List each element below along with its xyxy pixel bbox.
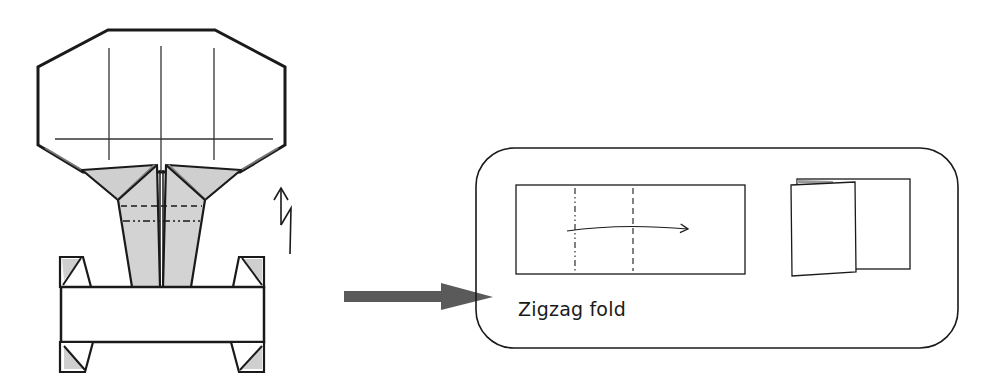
origami-diagram xyxy=(0,0,992,385)
inset-strip-diagram xyxy=(516,185,745,274)
inset-caption: Zigzag fold xyxy=(518,298,626,320)
model-base xyxy=(60,257,264,372)
inset-result-diagram xyxy=(791,179,910,276)
pointer-arrow-icon xyxy=(344,283,493,310)
zigzag-arrow-icon xyxy=(274,188,291,254)
model-top xyxy=(38,30,285,172)
